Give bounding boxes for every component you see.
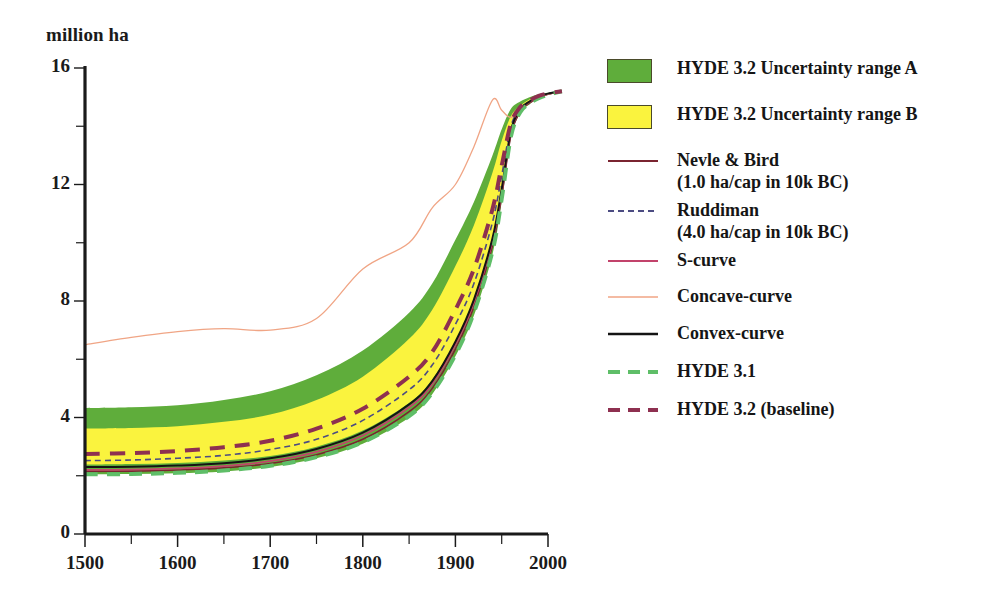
legend-item[interactable]: Nevle & Bird (1.0 ha/cap in 10k BC) [605,150,849,194]
legend-line-sample [605,323,667,345]
y-tick-label: 16 [32,55,70,77]
line-sample-svg [605,250,663,272]
line-sample-svg [605,323,663,345]
x-tick-label: 1700 [235,552,305,574]
legend-color-swatch [605,58,667,80]
legend-line-sample [605,200,667,222]
swatch-fill [607,59,652,83]
legend-label: HYDE 3.1 [677,361,756,383]
legend-label: Nevle & Bird (1.0 ha/cap in 10k BC) [677,150,849,194]
legend-line-sample [605,361,667,383]
legend-item[interactable]: Convex-curve [605,323,784,345]
legend-line-sample [605,286,667,308]
legend-label: HYDE 3.2 Uncertainty range B [677,104,917,126]
line-sample-svg [605,361,663,383]
line-sample-svg [605,200,663,222]
x-tick-label: 1900 [420,552,490,574]
figure-root: million ha 1612840 150016001700180019002… [0,0,1002,597]
legend-label: HYDE 3.2 (baseline) [677,399,835,421]
line-sample-svg [605,286,663,308]
legend-label: Concave-curve [677,286,792,308]
y-tick-label: 12 [32,172,70,194]
swatch-fill [607,105,652,129]
legend-item[interactable]: Concave-curve [605,286,792,308]
legend-line-sample [605,399,667,421]
legend-label: Ruddiman (4.0 ha/cap in 10k BC) [677,200,849,244]
legend-label: HYDE 3.2 Uncertainty range A [677,58,917,80]
uncertainty-bands [85,91,562,474]
x-tick-label: 1600 [143,552,213,574]
legend-item[interactable]: HYDE 3.1 [605,361,756,383]
y-tick-label: 4 [32,405,70,427]
legend-item[interactable]: HYDE 3.2 Uncertainty range B [605,104,917,126]
legend-label: S-curve [677,250,736,272]
line-sample-svg [605,399,663,421]
legend-line-sample [605,150,667,172]
legend-item[interactable]: HYDE 3.2 Uncertainty range A [605,58,917,80]
legend-color-swatch [605,104,667,126]
legend-line-sample [605,250,667,272]
chart-canvas [0,0,1002,597]
x-tick-label: 1800 [328,552,398,574]
legend-item[interactable]: S-curve [605,250,736,272]
line-sample-svg [605,150,663,172]
legend-label: Convex-curve [677,323,784,345]
y-tick-label: 0 [32,521,70,543]
x-tick-label: 2000 [513,552,583,574]
y-axis-unit-label: million ha [46,24,129,46]
x-tick-label: 1500 [50,552,120,574]
legend-item[interactable]: HYDE 3.2 (baseline) [605,399,835,421]
y-tick-label: 8 [32,288,70,310]
legend-item[interactable]: Ruddiman (4.0 ha/cap in 10k BC) [605,200,849,244]
